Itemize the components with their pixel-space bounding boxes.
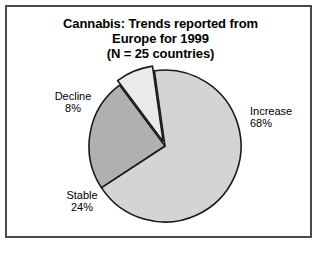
slice-label-decline-name: Decline [43, 90, 103, 102]
pie-chart: Decline 8% Increase 68% Stable 24% [7, 7, 314, 240]
slice-label-stable-name: Stable [53, 189, 111, 201]
slice-label-stable: Stable 24% [53, 189, 111, 213]
slice-label-decline: Decline 8% [43, 90, 103, 114]
pie-slice-group [89, 66, 241, 222]
slice-label-stable-percent: 24% [53, 201, 111, 213]
figure-canvas: Cannabis: Trends reported from Europe fo… [0, 0, 321, 255]
slice-label-increase: Increase 68% [250, 105, 320, 129]
slice-label-increase-percent: 68% [250, 117, 320, 129]
slice-label-decline-percent: 8% [43, 102, 103, 114]
slice-label-increase-name: Increase [250, 105, 320, 117]
chart-frame: Cannabis: Trends reported from Europe fo… [5, 5, 312, 238]
